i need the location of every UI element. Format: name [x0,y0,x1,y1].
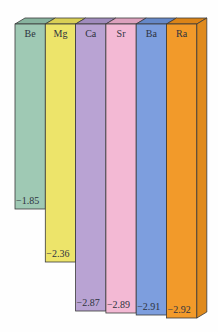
bar-front-face [106,24,136,313]
category-label: Ca [85,28,97,39]
category-label: Be [25,28,37,39]
bar-side-face [197,18,207,318]
value-label: −2.87 [77,297,100,308]
bar-front-face [76,24,106,311]
value-label: −2.92 [168,304,191,315]
value-label: −2.91 [137,301,160,312]
bar-front-face [136,24,166,315]
value-label: −2.89 [107,299,130,310]
value-label: −2.36 [46,248,69,259]
alkaline-earth-bar-chart: Be−1.85Mg−2.36Ca−2.87Sr−2.89Ba−2.91Ra−2.… [0,0,218,332]
value-label: −1.85 [16,195,39,206]
bar-front-face [167,24,197,318]
category-label: Sr [117,28,127,39]
category-label: Ra [176,28,188,39]
bar-front-face [15,24,45,209]
category-label: Mg [53,28,67,39]
category-label: Ba [146,28,158,39]
bar-ra: Ra−2.92 [167,18,207,318]
bars-group: Be−1.85Mg−2.36Ca−2.87Sr−2.89Ba−2.91Ra−2.… [15,18,207,318]
bar-front-face [45,24,75,262]
